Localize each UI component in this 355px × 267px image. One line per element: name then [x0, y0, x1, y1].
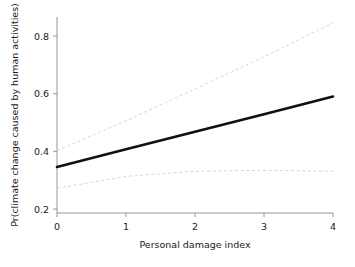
x-axis-title: Personal damage index	[139, 239, 251, 250]
y-tick-label-2: 0.6	[34, 88, 49, 99]
y-axis-title: Pr(climate change caused by human activi…	[9, 3, 20, 227]
y-tick-label-1: 0.4	[34, 146, 49, 157]
x-tick-label-1: 1	[123, 221, 129, 232]
y-tick-label-0: 0.2	[34, 204, 49, 215]
x-tick-label-0: 0	[54, 221, 60, 232]
predicted-probability-line	[57, 97, 333, 167]
x-tick-label-3: 3	[261, 221, 267, 232]
y-axis: 0.2 0.4 0.6 0.8 Pr(climate change caused…	[9, 3, 57, 227]
x-axis: 0 1 2 3 4 Personal damage index	[54, 213, 336, 250]
x-tick-label-2: 2	[192, 221, 198, 232]
chart-plot-area: 0.2 0.4 0.6 0.8 Pr(climate change caused…	[0, 0, 355, 267]
chart-figure: 0.2 0.4 0.6 0.8 Pr(climate change caused…	[0, 0, 355, 267]
x-tick-label-4: 4	[330, 221, 336, 232]
lower-confidence-line	[57, 170, 333, 188]
y-tick-label-3: 0.8	[34, 31, 49, 42]
data-series-group	[57, 23, 333, 188]
